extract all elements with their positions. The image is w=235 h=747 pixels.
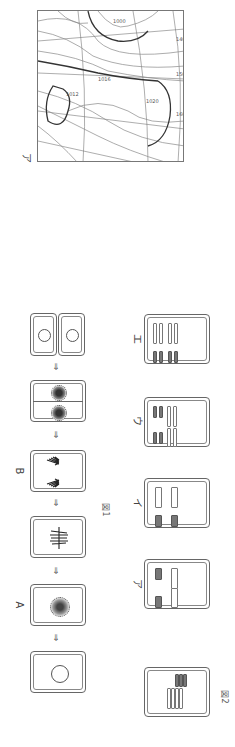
- chromosome-icon: [31, 517, 87, 559]
- figure2-caption: 図2: [220, 690, 228, 703]
- arrow-icon: ⇒: [51, 499, 60, 507]
- svg-text:160: 160: [176, 111, 184, 117]
- figure1-stage-anaphase: [30, 450, 86, 492]
- arrow-icon: ⇒: [51, 431, 60, 439]
- svg-text:1016: 1016: [98, 76, 111, 82]
- figure2-option-i[interactable]: [144, 478, 210, 528]
- figure1-stage-telophase: [30, 380, 86, 422]
- svg-text:140: 140: [176, 36, 184, 42]
- nucleus-icon: [38, 329, 51, 342]
- chromosome-icon: [31, 451, 87, 493]
- weather-map-isobars: 140 150 160 1016 1012 1000 1020: [38, 11, 184, 162]
- figure2-option-u[interactable]: [144, 397, 210, 447]
- figure1-stage-daughter-cells: [30, 313, 86, 356]
- nucleus-icon: [66, 329, 79, 342]
- option-label-u: ウ: [132, 416, 142, 426]
- weather-map-label: ア: [21, 153, 31, 163]
- figure2-option-a[interactable]: [144, 559, 210, 609]
- figure1-stage-interphase: [30, 651, 86, 693]
- option-label-i: イ: [132, 498, 142, 508]
- nucleus-icon: [51, 665, 69, 683]
- arrow-icon: ⇒: [51, 567, 60, 575]
- condensing-nucleus-icon: [50, 597, 70, 617]
- stage-label-a: A: [14, 602, 24, 609]
- svg-text:1000: 1000: [113, 18, 126, 24]
- stage-label-b: B: [14, 468, 24, 475]
- svg-text:150: 150: [176, 71, 184, 77]
- svg-text:1012: 1012: [66, 91, 79, 97]
- figure2-option-e[interactable]: [144, 314, 210, 364]
- weather-map: 140 150 160 1016 1012 1000 1020: [37, 10, 184, 162]
- figure2-base-cell: [144, 667, 210, 717]
- arrow-icon: ⇒: [51, 634, 60, 642]
- condensing-nucleus-icon: [51, 385, 67, 401]
- condensing-nucleus-icon: [51, 405, 67, 421]
- figure1-stage-metaphase: [30, 516, 86, 558]
- arrow-icon: ⇒: [51, 363, 60, 371]
- option-label-a: ア: [132, 579, 142, 589]
- figure1-caption: 図1: [101, 503, 109, 516]
- svg-text:1020: 1020: [146, 98, 159, 104]
- option-label-e: エ: [132, 334, 142, 344]
- figure1-stage-prophase: [30, 584, 86, 626]
